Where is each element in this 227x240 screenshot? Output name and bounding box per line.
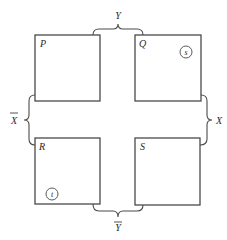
right-brace-icon [200,95,212,145]
bottom-brace-icon [93,204,143,217]
set-diagram: P Q R S s t Y Y X X [0,0,227,240]
marker-s: s [180,46,192,58]
left-brace-icon [24,95,35,145]
region-p-label: P [39,38,46,49]
region-s-label: S [140,141,145,152]
left-brace-label: X [10,115,18,126]
marker-t: t [46,188,58,200]
right-brace-label: X [215,115,223,126]
top-brace-icon [93,24,143,35]
top-brace-label: Y [115,10,122,21]
region-q-label: Q [139,38,147,49]
marker-s-label: s [184,48,187,57]
region-r-label: R [38,141,45,152]
bottom-brace-label: Y [115,222,122,233]
marker-t-label: t [51,190,54,199]
